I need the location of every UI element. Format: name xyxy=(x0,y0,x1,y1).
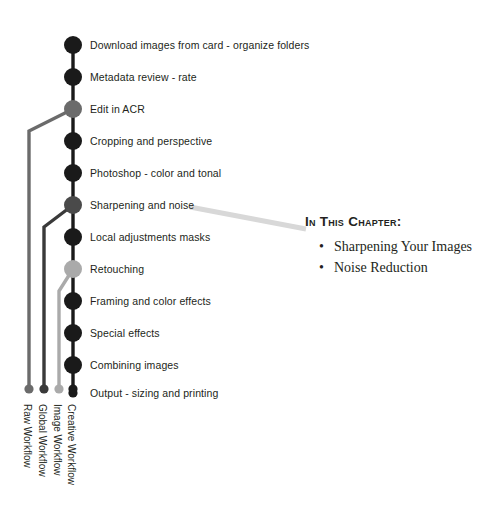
step-label-10: Combining images xyxy=(90,359,179,371)
step-node-9[interactable] xyxy=(64,324,82,342)
step-node-2[interactable] xyxy=(64,100,82,118)
chapter-connector-group xyxy=(190,207,306,229)
step-node-3[interactable] xyxy=(64,132,82,150)
step-label-7: Retouching xyxy=(90,263,144,275)
step-node-1[interactable] xyxy=(64,68,82,86)
track-label-global-workflow: Global Workflow xyxy=(37,404,48,477)
chapter-topic-label: Noise Reduction xyxy=(334,260,428,275)
bullet-icon: • xyxy=(319,257,324,278)
bullet-icon: • xyxy=(319,236,324,257)
workflow-diagram: Download images from card - organize fol… xyxy=(0,0,477,508)
step-label-4: Photoshop - color and tonal xyxy=(90,167,221,179)
chapter-connector-line xyxy=(190,207,306,229)
step-label-5: Sharpening and noise xyxy=(90,199,194,211)
step-label-6: Local adjustments masks xyxy=(90,231,210,243)
track-label-raw-workflow: Raw Workflow xyxy=(22,404,33,468)
step-label-1: Metadata review - rate xyxy=(90,71,197,83)
step-label-9: Special effects xyxy=(90,327,160,339)
branch-terminal-global-workflow xyxy=(39,384,48,393)
chapter-topic-item: •Sharpening Your Images xyxy=(305,236,477,257)
step-label-11: Output - sizing and printing xyxy=(90,387,218,399)
step-node-5[interactable] xyxy=(64,196,82,214)
in-this-chapter-box: In This Chapter: •Sharpening Your Images… xyxy=(305,214,477,278)
chapter-topic-item: •Noise Reduction xyxy=(305,257,477,278)
step-label-2: Edit in ACR xyxy=(90,103,145,115)
step-label-3: Cropping and perspective xyxy=(90,135,212,147)
step-node-7[interactable] xyxy=(64,260,82,278)
track-label-image-workflow: Image Workflow xyxy=(52,404,63,476)
branch-terminal-raw-workflow xyxy=(24,384,33,393)
step-node-6[interactable] xyxy=(64,228,82,246)
branch-lines-group xyxy=(29,109,73,389)
branch-terminal-image-workflow xyxy=(54,384,63,393)
branch-terminal-creative-workflow xyxy=(68,384,77,393)
step-node-8[interactable] xyxy=(64,292,82,310)
step-node-4[interactable] xyxy=(64,164,82,182)
chapter-topic-label: Sharpening Your Images xyxy=(334,239,472,254)
track-label-creative-workflow: Creative Workflow xyxy=(66,404,77,485)
chapter-heading: In This Chapter: xyxy=(305,214,477,229)
step-node-10[interactable] xyxy=(64,356,82,374)
branch-line-raw-workflow xyxy=(29,109,73,389)
chapter-topic-list: •Sharpening Your Images•Noise Reduction xyxy=(305,236,477,278)
step-label-8: Framing and color effects xyxy=(90,295,211,307)
step-node-0[interactable] xyxy=(64,36,82,54)
step-label-0: Download images from card - organize fol… xyxy=(90,39,309,51)
